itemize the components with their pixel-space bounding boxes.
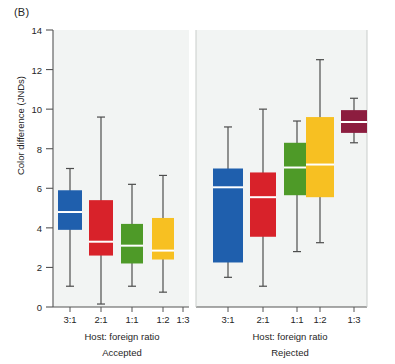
box-accepted-1-2 (152, 218, 174, 260)
figure-panel-b: (B) Color difference (JNDs) 02468101214 … (0, 0, 395, 364)
box-accepted-2-1 (89, 200, 113, 255)
box-rejected-2-1 (250, 172, 276, 236)
box-accepted-3-1 (58, 190, 82, 230)
box-rejected-3-1 (213, 169, 243, 263)
boxplot-canvas (0, 0, 395, 364)
box-rejected-1-2 (306, 117, 334, 197)
box-accepted-1-1 (121, 224, 143, 264)
